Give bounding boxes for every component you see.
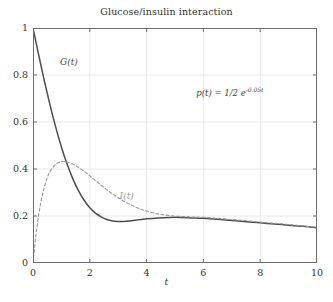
chart-title: Glucose/insulin interaction (0, 6, 333, 17)
equation-exponent: -0.05t (246, 86, 264, 93)
equation-annotation: p(t) = 1/2 e-0.05t (196, 86, 263, 98)
y-tick-label: 0.6 (2, 116, 28, 127)
chart-figure: Glucose/insulin interaction 00.20.40.60.… (0, 0, 333, 302)
y-tick-label: 1 (2, 22, 28, 33)
curve-label-gt: G(t) (60, 57, 78, 67)
y-tick-label: 0.2 (2, 210, 28, 221)
curve-label-it: I(t) (120, 191, 134, 201)
y-tick-label: 0.4 (2, 163, 28, 174)
curve-it (33, 161, 317, 263)
x-axis-title: t (0, 276, 333, 287)
y-tick-label: 0.8 (2, 69, 28, 80)
